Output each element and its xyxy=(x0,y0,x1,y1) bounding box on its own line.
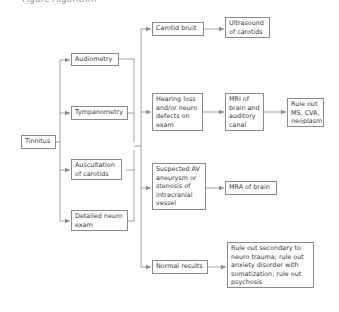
node-mra: MRA of brain xyxy=(225,181,277,195)
node-mri: MRI of brain and auditory canal xyxy=(225,93,264,131)
node-suspected-av: Suspected AV aneurysm or stenosis of int… xyxy=(152,163,206,210)
node-audiometry: Audiometry xyxy=(71,53,119,66)
node-normal-results: Normal results xyxy=(152,260,208,274)
node-rule-out-ms: Rule out MS, CVA, neoplasm xyxy=(287,98,324,127)
node-ultrasound: Ultrasound of carotids xyxy=(225,17,270,38)
node-auscultation: Auscultation of carotids xyxy=(71,159,122,180)
node-carotid-bruit: Carotid bruit xyxy=(152,22,204,36)
node-hearing-loss: Hearing loss and/or neuro defects on exa… xyxy=(152,93,203,131)
node-neuro-exam: Detailed neuro exam xyxy=(71,210,128,231)
node-tympanometry: Tympanometry xyxy=(71,106,128,120)
diagram-canvas: Figure Algorithm xyxy=(0,0,339,312)
node-rule-out-secondary: Rule out secondary to neuro trauma; rule… xyxy=(227,242,314,288)
node-tinnitus: Tinnitus xyxy=(21,135,56,149)
